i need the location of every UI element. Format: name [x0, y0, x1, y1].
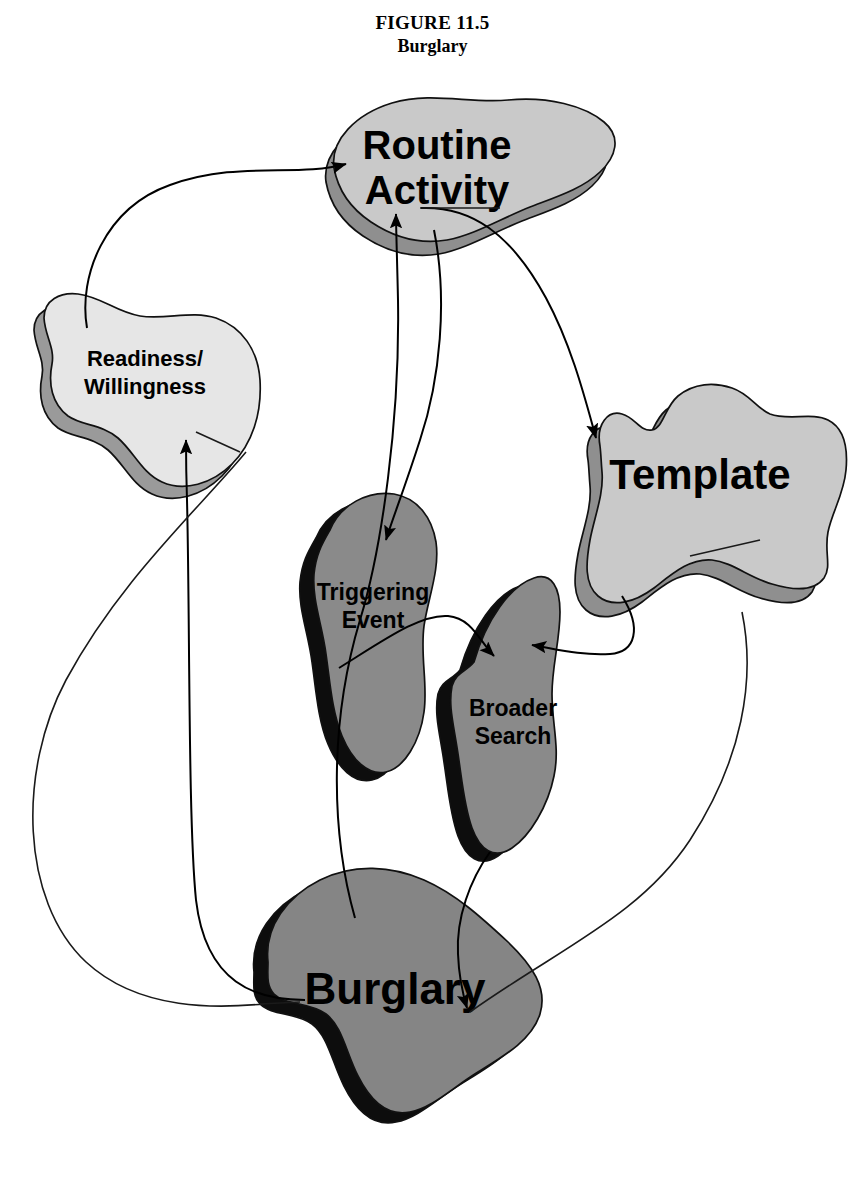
edge-readiness-to-burglary [33, 452, 264, 1006]
node-label-readiness-willingness-line1: Readiness/ [87, 346, 203, 371]
edge-readiness-to-routine-activity [85, 164, 346, 328]
node-label-broader-search-line1: Broader [469, 695, 557, 721]
node-label-readiness-willingness-line2: Willingness [84, 374, 206, 399]
figure-container: FIGURE 11.5 Burglary Routine Activity Re… [0, 0, 865, 1190]
diagram-canvas: Routine Activity Readiness/ Willingness … [0, 0, 865, 1190]
node-label-triggering-event-line2: Event [342, 607, 405, 633]
node-label-routine-activity-line1: Routine [363, 123, 512, 167]
node-label-template: Template [609, 451, 790, 498]
node-label-broader-search-line2: Search [475, 723, 552, 749]
node-broader-search[interactable]: Broader Search [451, 577, 560, 853]
node-label-routine-activity-line2: Activity [365, 168, 510, 212]
node-label-triggering-event-line1: Triggering [317, 579, 429, 605]
node-readiness-willingness[interactable]: Readiness/ Willingness [44, 294, 260, 487]
